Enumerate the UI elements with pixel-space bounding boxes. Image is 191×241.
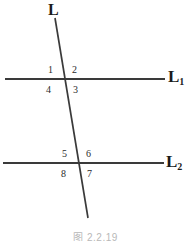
figure-caption: 图 2.2.19 bbox=[0, 229, 191, 241]
line-label-L2-base: L bbox=[166, 152, 177, 171]
angle-label-8: 8 bbox=[61, 169, 66, 179]
angle-label-5: 5 bbox=[62, 149, 67, 159]
angle-label-7: 7 bbox=[87, 169, 92, 179]
line-label-L1: L1 bbox=[168, 68, 184, 85]
line-label-L2-subscript: 2 bbox=[177, 161, 182, 172]
geometry-canvas bbox=[0, 0, 191, 241]
angle-label-3: 3 bbox=[73, 85, 78, 95]
line-label-L2: L2 bbox=[166, 153, 182, 170]
angle-label-6: 6 bbox=[86, 149, 91, 159]
line-label-L: L bbox=[48, 2, 59, 18]
angle-label-4: 4 bbox=[46, 85, 51, 95]
line-L-transversal-stroke bbox=[55, 18, 88, 218]
line-label-L1-base: L bbox=[168, 67, 179, 86]
geometry-figure: L L1 L2 1 2 4 3 5 6 8 7 图 2.2.19 bbox=[0, 0, 191, 241]
line-label-L1-subscript: 1 bbox=[179, 76, 184, 87]
angle-label-1: 1 bbox=[48, 65, 53, 75]
angle-label-2: 2 bbox=[72, 65, 77, 75]
